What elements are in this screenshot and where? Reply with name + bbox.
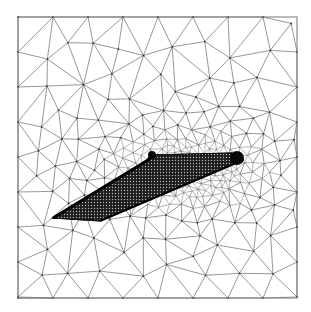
mesh-figure xyxy=(0,0,311,312)
wing-surface-mesh xyxy=(53,151,244,221)
